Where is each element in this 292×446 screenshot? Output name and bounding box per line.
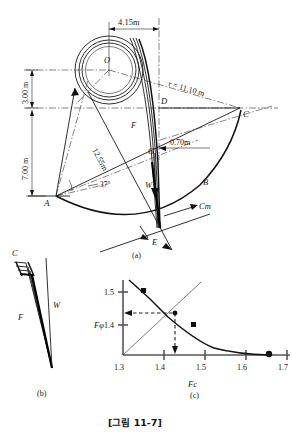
chart-ytick-label-1-4: 1.4 xyxy=(104,321,114,330)
dim-label-radius: r = 11.10 m xyxy=(167,79,206,98)
resultant-vector-arrow xyxy=(190,204,198,210)
point-label-d: D xyxy=(160,96,168,106)
chart-curve-fphi xyxy=(129,280,270,355)
panel-c: 1.4 1.5 1.3 1.4 1.5 1.6 1.7 Fφ Fc (c) xyxy=(93,280,290,400)
point-label-e: E xyxy=(151,237,158,247)
panel-b: C F W (b) xyxy=(12,248,61,398)
chart-identity-line xyxy=(123,282,201,355)
panel-a: 4.15m 3.00 m 7.00 m O xyxy=(21,17,278,260)
chart-data-point-3 xyxy=(266,351,272,357)
chart-xtick-label-1-4: 1.4 xyxy=(155,363,165,372)
constr-line-a-steep xyxy=(56,80,88,196)
dim-arrow-bot-300 xyxy=(30,102,34,108)
point-label-b: B xyxy=(203,177,208,187)
panel-b-force-label-f: F xyxy=(17,312,24,322)
chart-x-axis-label: Fc xyxy=(187,379,197,389)
dim-arrow-left-415 xyxy=(109,27,115,31)
dim-label-700: 7.00 m xyxy=(21,157,30,180)
dim-label-1255: 12.55m xyxy=(90,147,110,173)
panel-b-caption: (b) xyxy=(37,389,47,398)
dim-label-415: 4.15m xyxy=(118,17,140,27)
chart-xtick-label-1-5: 1.5 xyxy=(196,363,206,372)
dim-arrow-bot-700 xyxy=(30,190,34,196)
angle-leader-37 xyxy=(88,184,98,186)
chart-data-point-2 xyxy=(191,322,196,327)
panel-b-weight-label-w: W xyxy=(53,300,61,310)
dim-label-300: 3.00 m xyxy=(21,81,30,104)
point-label-f: F xyxy=(130,120,137,130)
panel-c-caption: (c) xyxy=(190,391,199,400)
chart-xtick-label-1-3: 1.3 xyxy=(114,363,124,372)
panel-a-caption: (a) xyxy=(132,251,141,260)
dim-arrow-right-415 xyxy=(153,27,159,31)
panel-b-label-c: C xyxy=(12,248,18,258)
figure-caption: [그림 11-7] xyxy=(108,417,162,428)
blade-line-1 xyxy=(130,38,157,228)
slant-line-1255 xyxy=(88,92,172,250)
dim-arrow-top-300 xyxy=(30,70,34,76)
chart-guide-arrow-left xyxy=(124,310,132,316)
constr-line-a-c xyxy=(56,140,198,196)
force-label-cm: Cm xyxy=(199,201,211,211)
dim-arrow-070 xyxy=(159,146,166,151)
chart-solution-point xyxy=(173,311,178,316)
chart-ytick-label-1-5: 1.5 xyxy=(104,288,114,297)
chart-y-axis-label: Fφ xyxy=(93,320,104,330)
point-label-a: A xyxy=(43,198,50,208)
chart-guide-arrow-down xyxy=(172,346,178,354)
force-label-w: W xyxy=(145,180,153,190)
constr-line-c-mid xyxy=(160,106,272,140)
chart-xtick-label-1-7: 1.7 xyxy=(278,363,288,372)
chart-xtick-label-1-6: 1.6 xyxy=(237,363,247,372)
arm-a-upper xyxy=(56,88,75,196)
chart-data-point-1 xyxy=(141,288,146,293)
figure-svg: 4.15m 3.00 m 7.00 m O xyxy=(0,0,292,446)
panel-b-blade-cap-left xyxy=(16,262,22,276)
point-label-o: O xyxy=(104,55,110,65)
dim-label-070: 0.70m xyxy=(170,138,191,147)
dim-label-37deg: 37° xyxy=(100,180,111,189)
arm-a-upper-arrow xyxy=(71,88,79,96)
point-label-c: C xyxy=(243,109,249,119)
dim-arrow-top-700 xyxy=(30,110,34,116)
point-label-g: G xyxy=(148,146,154,156)
figure-container: 4.15m 3.00 m 7.00 m O xyxy=(0,0,292,446)
